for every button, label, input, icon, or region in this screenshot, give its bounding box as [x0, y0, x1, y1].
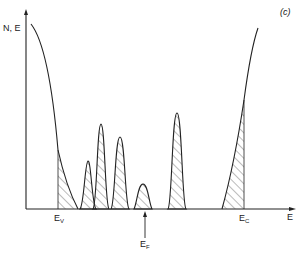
gap-state-peak-1: [80, 161, 96, 209]
y-axis-label: N, E: [3, 24, 21, 33]
y-axis: [24, 9, 28, 209]
y-axis-arrow-icon: [24, 9, 28, 15]
conduction-edge-subscript: C: [245, 218, 249, 224]
fermi-level-arrow: [143, 211, 147, 238]
density-of-states-diagram: N, E (c) E EV EF EC: [0, 0, 301, 253]
gap-state-peak-4: [134, 184, 152, 209]
gap-state-peak-2: [93, 124, 109, 209]
conduction-edge-label: EC: [239, 214, 249, 224]
x-axis-label: E: [287, 213, 293, 222]
conduction-band: [222, 28, 258, 209]
gap-state-peak-3: [111, 137, 129, 209]
gap-state-peak-5: [168, 113, 186, 209]
valence-band: [31, 24, 78, 209]
arrow-up-icon: [143, 211, 147, 217]
panel-label: (c): [280, 8, 291, 17]
x-axis-arrow-icon: [289, 207, 296, 211]
diagram-canvas: [0, 0, 301, 253]
valence-edge-subscript: V: [60, 218, 64, 224]
fermi-level-subscript: F: [146, 244, 150, 250]
fermi-level-label: EF: [140, 240, 150, 250]
valence-edge-label: EV: [54, 214, 64, 224]
